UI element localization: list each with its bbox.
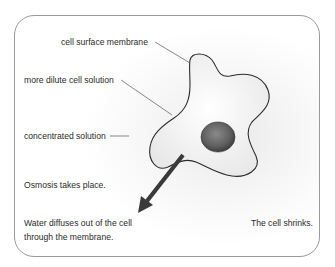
cell-membrane-outline: [150, 54, 270, 176]
label-concentrated-solution: concentrated solution: [24, 129, 106, 143]
statement-osmosis: Osmosis takes place.: [24, 178, 106, 192]
nucleus: [201, 122, 235, 152]
membrane-leader-line: [155, 42, 190, 63]
statement-water-diffuses-line2: through the membrane.: [24, 230, 113, 244]
statement-cell-shrinks: The cell shrinks.: [251, 216, 313, 230]
cell-solution-leader-line: [121, 80, 172, 115]
label-more-dilute-cell-solution: more dilute cell solution: [24, 73, 114, 87]
label-cell-surface-membrane: cell surface membrane: [61, 35, 148, 49]
statement-water-diffuses-line1: Water diffuses out of the cell: [24, 216, 132, 230]
